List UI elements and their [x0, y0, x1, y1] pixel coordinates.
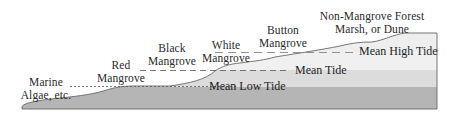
zone-label-black-mangrove: Black Mangrove [147, 42, 197, 67]
zone-label-line: Mangrove [96, 72, 146, 84]
zone-label-line: Mangrove [258, 37, 308, 49]
zone-label-line: Red [96, 59, 146, 71]
zone-label-line: Mangrove [201, 52, 251, 64]
tide-label-mean-high: Mean High Tide [359, 45, 438, 58]
zone-label-line: Marsh, or Dune [318, 23, 426, 35]
zone-label-line: Black [147, 42, 197, 54]
zone-label-line: Mangrove [147, 55, 197, 67]
zone-label-line: Non-Mangrove Forest [318, 10, 426, 22]
zone-label-button-mangrove: Button Mangrove [258, 24, 308, 49]
zone-label-line: Algae, etc. [18, 89, 74, 101]
mangrove-zonation-diagram: Marine Algae, etc. Red Mangrove Black Ma… [0, 0, 459, 120]
zone-label-line: Button [258, 24, 308, 36]
zone-label-non-mangrove: Non-Mangrove Forest Marsh, or Dune [318, 10, 426, 35]
tide-label-mean-low: Mean Low Tide [209, 80, 286, 93]
tide-label-mean: Mean Tide [295, 64, 347, 77]
zone-label-line: White [201, 39, 251, 51]
zone-label-white-mangrove: White Mangrove [201, 39, 251, 64]
zone-label-marine-algae: Marine Algae, etc. [18, 76, 74, 101]
zone-label-red-mangrove: Red Mangrove [96, 59, 146, 84]
zone-label-line: Marine [18, 76, 74, 88]
